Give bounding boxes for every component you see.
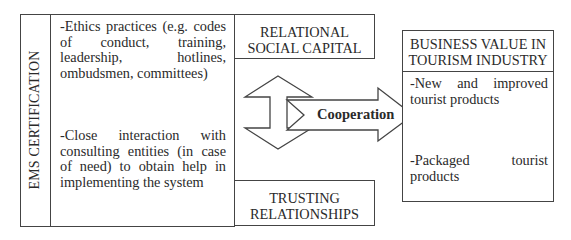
packaged-products-text: -Packaged tourist products bbox=[410, 153, 548, 184]
new-improved-products-text: -New and improved tourist products bbox=[410, 76, 548, 107]
business-value-title: BUSINESS VALUE IN TOURISM INDUSTRY bbox=[403, 36, 553, 72]
business-value-title-text: BUSINESS VALUE IN TOURISM INDUSTRY bbox=[408, 36, 547, 68]
cooperation-label: Cooperation bbox=[317, 106, 394, 123]
